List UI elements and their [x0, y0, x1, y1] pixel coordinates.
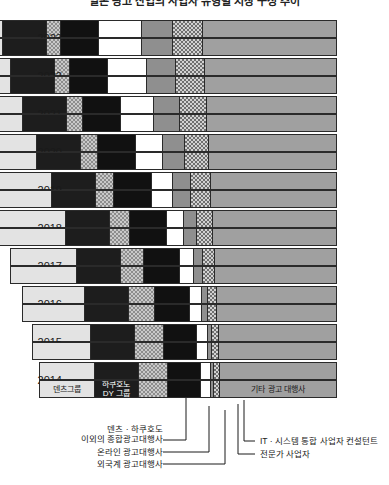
bar-segment-other — [205, 59, 337, 75]
bar-2018-2 — [0, 228, 337, 246]
bar-segment-online — [130, 211, 168, 227]
bar-segment-other — [209, 153, 337, 169]
bar-segment-online — [168, 381, 202, 397]
bar-segment-it — [154, 97, 180, 113]
bar-segment-it — [194, 249, 203, 265]
bar-2015-2 — [32, 342, 337, 360]
bar-2022-2 — [0, 76, 337, 94]
segment-caption-dentsu: 덴츠그룹 — [40, 385, 94, 394]
bar-segment-sogo — [96, 191, 114, 207]
bar-segment-dentsu — [11, 267, 77, 283]
bar-segment-online — [83, 115, 121, 131]
bar-2016-2 — [22, 304, 337, 322]
bar-segment-foreign — [180, 249, 194, 265]
bar-segment-foreign — [99, 21, 143, 37]
bar-segment-online — [164, 325, 198, 341]
bar-segment-expert — [191, 191, 211, 207]
bar-segment-online — [70, 59, 108, 75]
bar-segment-it — [184, 229, 197, 245]
bar-segment-foreign — [99, 39, 143, 55]
bar-segment-sogo — [81, 135, 98, 151]
bar-segment-other — [217, 287, 337, 303]
bar-segment-sogo — [47, 39, 61, 55]
bar-segment-it — [163, 135, 185, 151]
bar-segment-sogo — [55, 77, 70, 93]
bar-segment-foreign — [197, 343, 208, 359]
bar-segment-online — [83, 97, 121, 113]
bar-segment-dentsu — [0, 115, 23, 131]
bar-segment-foreign — [190, 287, 202, 303]
bar-segment-other — [203, 39, 337, 55]
bar-segment-online — [114, 173, 152, 189]
bar-segment-other — [211, 173, 337, 189]
bar-segment-online — [70, 77, 108, 93]
segment-caption-hakuhodo: 하쿠호도DY 그룹 — [95, 380, 138, 398]
bar-segment-sogo — [121, 267, 144, 283]
bar-segment-dentsu — [0, 229, 66, 245]
bar-segment-hakuhodo — [23, 115, 67, 131]
bar-segment-sogo — [67, 97, 83, 113]
bar-segment-it — [163, 153, 185, 169]
bar-segment-it — [194, 267, 203, 283]
bar-2023-2 — [0, 38, 337, 56]
callout-sogo-line2: 이외의 종합광고대행사 — [8, 434, 163, 444]
bar-segment-online — [98, 135, 136, 151]
bar-segment-it — [142, 21, 173, 37]
bar-segment-hakuhodo — [37, 153, 81, 169]
bar-segment-online — [144, 249, 181, 265]
bar-segment-foreign — [136, 153, 164, 169]
bar-segment-sogo — [96, 173, 114, 189]
bar-segment-hakuhodo — [66, 229, 110, 245]
bar-segment-sogo — [67, 115, 83, 131]
bar-segment-online — [114, 191, 152, 207]
bar-segment-hakuhodo — [85, 287, 129, 303]
bar-2014-2: 덴츠그룹하쿠호도DY 그룹기타 광고 대행사 — [39, 380, 337, 398]
bar-2017-2 — [10, 266, 337, 284]
bar-segment-expert — [180, 115, 207, 131]
bar-segment-it — [154, 115, 180, 131]
bar-segment-hakuhodo — [52, 191, 96, 207]
bar-segment-expert — [173, 39, 203, 55]
bar-segment-sogo — [129, 287, 155, 303]
bar-segment-hakuhodo — [91, 325, 135, 341]
bar-segment-expert — [180, 97, 207, 113]
callout-label-foreign: 외국계 광고대행사 — [8, 459, 163, 469]
bar-segment-it — [147, 77, 176, 93]
bar-segment-other — [205, 77, 337, 93]
bar-segment-expert — [173, 21, 203, 37]
bar-segment-hakuhodo — [91, 343, 135, 359]
callout-label-expert: 전문가 사업자 — [260, 449, 310, 459]
bar-segment-foreign — [197, 325, 208, 341]
bar-segment-sogo — [135, 343, 164, 359]
bar-segment-it — [142, 39, 173, 55]
bar-segment-expert — [176, 59, 205, 75]
bar-segment-foreign — [121, 115, 155, 131]
bar-segment-other — [219, 343, 337, 359]
bar-segment-other: 기타 광고 대행사 — [220, 381, 337, 397]
bar-segment-expert — [191, 173, 211, 189]
bar-segment-dentsu — [33, 343, 91, 359]
bar-segment-expert — [208, 287, 217, 303]
bar-segment-hakuhodo — [77, 267, 121, 283]
bar-segment-online — [155, 287, 191, 303]
bar-segment-hakuhodo — [85, 305, 129, 321]
bar-segment-foreign — [136, 135, 164, 151]
bar-segment-expert — [197, 211, 213, 227]
bar-segment-hakuhodo — [66, 211, 110, 227]
bar-segment-other — [203, 21, 337, 37]
bar-segment-foreign — [121, 97, 155, 113]
bar-segment-online — [61, 39, 99, 55]
bar-segment-hakuhodo — [3, 39, 47, 55]
bar-segment-online — [98, 153, 136, 169]
bar-2014-1 — [39, 362, 337, 380]
bar-segment-other — [219, 325, 337, 341]
bar-segment-foreign — [152, 173, 174, 189]
callout-label-sogo: 덴츠 · 하쿠호도 이외의 종합광고대행사 — [8, 424, 163, 444]
page-title: 일본 광고 산업의 사업자 유형별 시장 구성 추이 — [0, 0, 389, 7]
bar-segment-expert — [176, 77, 205, 93]
bar-segment-foreign — [167, 211, 184, 227]
bar-segment-it — [173, 191, 191, 207]
bar-segment-hakuhodo — [95, 363, 139, 379]
bar-segment-dentsu — [23, 305, 85, 321]
bar-segment-dentsu: 덴츠그룹 — [40, 381, 95, 397]
